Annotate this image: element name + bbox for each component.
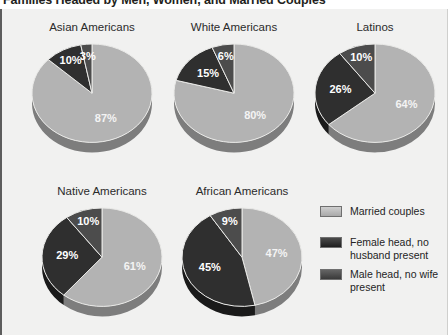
pie-title: Native Americans bbox=[30, 185, 174, 197]
pie-graphic: 64%26%10% bbox=[311, 39, 439, 171]
pie-title: African Americans bbox=[170, 185, 314, 197]
pie-chart-asian-americans: Asian Americans 87%10%3% bbox=[20, 21, 164, 171]
pie-title: Latinos bbox=[305, 21, 445, 33]
slice-label: 47% bbox=[266, 247, 288, 259]
slice-label: 10% bbox=[60, 54, 82, 66]
pie-graphic: 47%45%9% bbox=[178, 203, 306, 335]
slice-label: 10% bbox=[77, 215, 99, 227]
slice-label: 15% bbox=[197, 67, 219, 79]
slice-label: 3% bbox=[80, 50, 96, 62]
legend-swatch-male-head bbox=[320, 269, 342, 280]
legend-swatch-female-head bbox=[320, 237, 342, 248]
page-title: Families Headed by Men, Women, and Marri… bbox=[3, 0, 326, 7]
pie-graphic: 87%10%3% bbox=[28, 39, 156, 171]
legend-item-female-head: Female head, no husband present bbox=[320, 236, 448, 261]
legend-label: Male head, no wife present bbox=[350, 268, 448, 293]
legend-item-married-couples: Married couples bbox=[320, 205, 448, 229]
slice-label: 10% bbox=[350, 51, 372, 63]
pie-chart-white-americans: White Americans 80%15%6% bbox=[162, 21, 306, 171]
slice-label: 87% bbox=[95, 112, 117, 124]
pie-graphic: 80%15%6% bbox=[170, 39, 298, 171]
slice-label: 61% bbox=[124, 260, 146, 272]
slice-label: 29% bbox=[56, 249, 78, 261]
slice-label: 26% bbox=[329, 83, 351, 95]
chart-legend: Married couples Female head, no husband … bbox=[320, 205, 448, 300]
slice-label: 9% bbox=[222, 215, 238, 227]
pie-title: Asian Americans bbox=[20, 21, 164, 33]
slice-label: 64% bbox=[395, 98, 417, 110]
legend-label: Married couples bbox=[350, 205, 448, 218]
pie-title: White Americans bbox=[162, 21, 306, 33]
slice-label: 80% bbox=[244, 109, 266, 121]
pie-chart-latinos: Latinos 64%26%10% bbox=[305, 21, 445, 171]
figure-title-bar: Families Headed by Men, Women, and Marri… bbox=[0, 0, 448, 9]
legend-label: Female head, no husband present bbox=[350, 236, 448, 261]
chart-board: Asian Americans 87%10%3% White Americans… bbox=[0, 9, 448, 335]
pie-chart-native-americans: Native Americans 61%29%10% bbox=[30, 185, 174, 335]
slice-label: 45% bbox=[199, 261, 221, 273]
figure-root: Families Headed by Men, Women, and Marri… bbox=[0, 0, 448, 335]
legend-swatch-married-couples bbox=[320, 206, 342, 217]
legend-item-male-head: Male head, no wife present bbox=[320, 268, 448, 293]
pie-chart-african-americans: African Americans 47%45%9% bbox=[170, 185, 314, 335]
slice-label: 6% bbox=[218, 50, 234, 62]
pie-graphic: 61%29%10% bbox=[38, 203, 166, 335]
